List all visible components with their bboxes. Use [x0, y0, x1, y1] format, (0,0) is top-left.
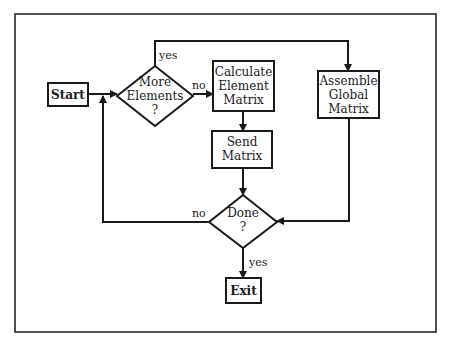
done-line2: ? [209, 220, 277, 234]
more-elements-line3: ? [117, 103, 193, 117]
calculate-label: Calculate Element Matrix [213, 65, 274, 107]
done-label: Done ? [209, 206, 277, 234]
edge-label-done-no: no [192, 207, 206, 221]
send-line2: Matrix [212, 149, 272, 163]
more-elements-line1: More [117, 75, 193, 89]
calculate-line2: Element [213, 79, 274, 93]
calculate-line1: Calculate [213, 65, 274, 79]
assemble-line1: Assemble [318, 74, 379, 88]
more-elements-line2: Elements [117, 89, 193, 103]
edge-label-more-no: no [192, 79, 206, 93]
edge-label-more-yes: yes [159, 49, 177, 63]
send-line1: Send [212, 135, 272, 149]
send-label: Send Matrix [212, 135, 272, 163]
assemble-label: Assemble Global Matrix [318, 74, 379, 116]
assemble-line3: Matrix [318, 102, 379, 116]
done-line1: Done [209, 206, 277, 220]
edge-assemble-to-done [277, 118, 349, 221]
more-elements-label: More Elements ? [117, 75, 193, 117]
calculate-line3: Matrix [213, 93, 274, 107]
edge-label-done-yes: yes [249, 256, 267, 270]
assemble-line2: Global [318, 88, 379, 102]
exit-label: Exit [226, 284, 261, 298]
flowchart-canvas [0, 0, 449, 346]
start-label: Start [48, 88, 88, 102]
